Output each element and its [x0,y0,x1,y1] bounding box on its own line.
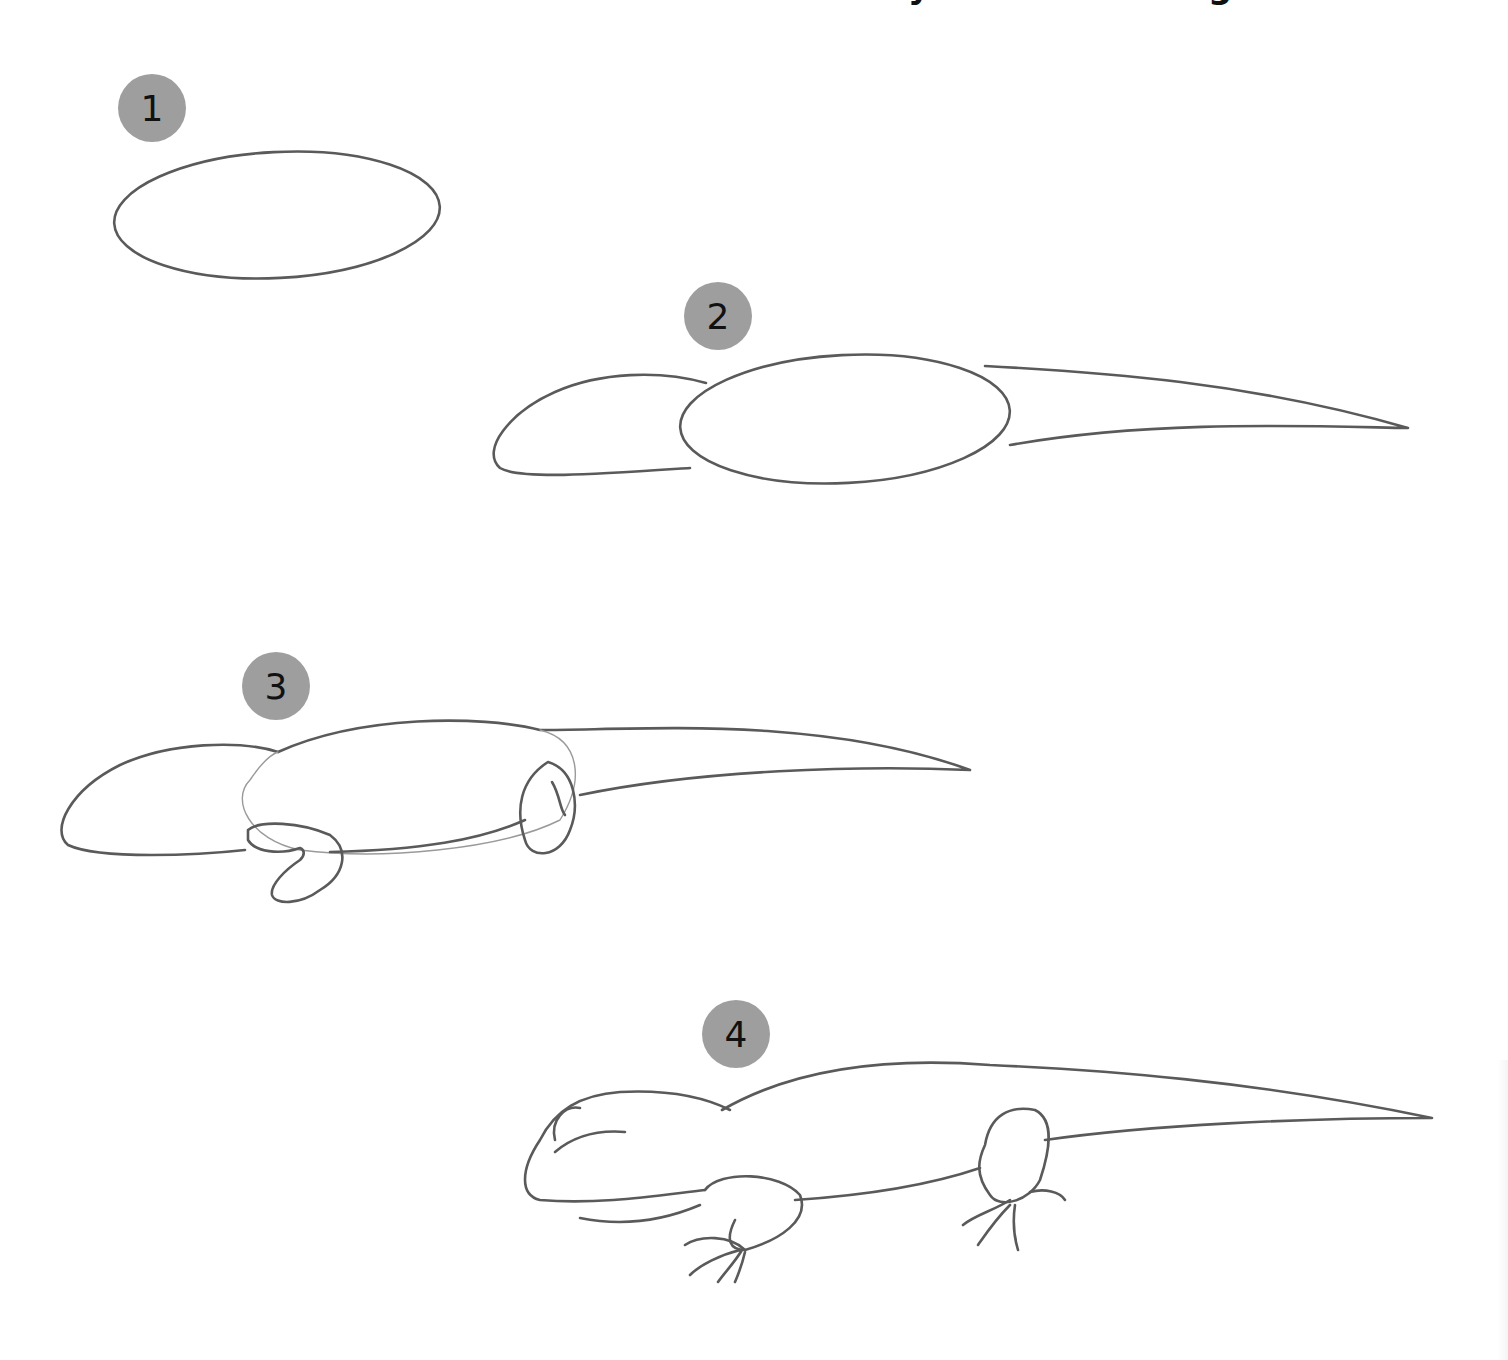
step-4-lizard [525,1063,1432,1282]
step-1-oval [111,144,443,287]
right-edge-shadow [1498,1060,1508,1360]
step-3-shapes [61,721,970,902]
lizard-drawing-steps [0,0,1508,1360]
step-2-shapes [494,346,1408,491]
